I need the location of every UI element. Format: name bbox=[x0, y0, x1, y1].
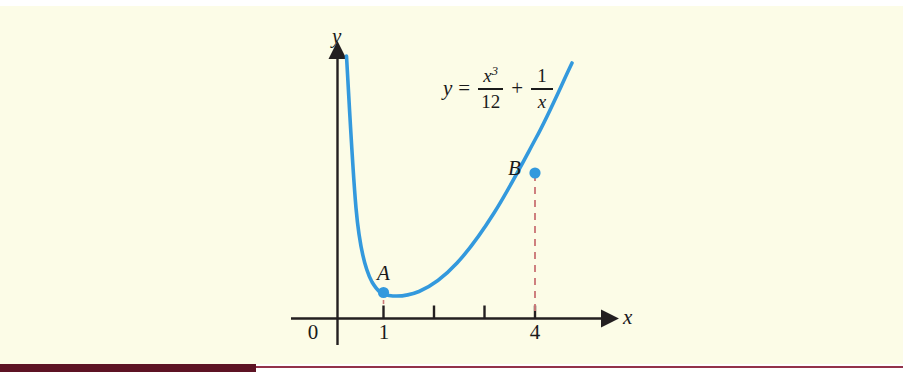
equation-annotation: y = x3 12 + 1 x bbox=[443, 66, 555, 112]
equation-term-1-exponent: 3 bbox=[492, 64, 498, 78]
equation-term-2-numerator: 1 bbox=[534, 66, 550, 86]
point-b-label: B bbox=[508, 156, 521, 181]
x-tick-label-1: 1 bbox=[373, 320, 395, 345]
equation-term-2-fraction-bar bbox=[531, 88, 553, 90]
equation-lhs: y bbox=[443, 76, 452, 101]
equation-term-1: x3 12 bbox=[476, 66, 505, 112]
equation-term-2: 1 x bbox=[529, 66, 555, 112]
equation-term-1-numerator-base: x bbox=[483, 65, 491, 86]
x-tick-label-4: 4 bbox=[524, 320, 546, 345]
equation-term-2-denominator: x bbox=[535, 92, 549, 112]
point-b-marker bbox=[529, 167, 540, 178]
graph-canvas bbox=[0, 0, 903, 374]
equation-term-1-numerator: x3 bbox=[480, 66, 501, 86]
point-a-label: A bbox=[377, 261, 390, 286]
origin-label: 0 bbox=[302, 320, 324, 345]
equation-term-1-denominator: 12 bbox=[478, 92, 503, 112]
equation-equals: = bbox=[452, 76, 476, 101]
page-footer-rule-dark bbox=[0, 364, 256, 372]
equation-term-1-fraction-bar bbox=[478, 88, 503, 90]
equation-plus: + bbox=[505, 76, 529, 101]
y-axis-label: y bbox=[332, 24, 341, 49]
figure-page: y x 0 1 4 A B y = x3 12 + 1 x bbox=[0, 0, 903, 374]
x-axis-label: x bbox=[623, 305, 632, 330]
point-a-marker bbox=[378, 287, 389, 298]
